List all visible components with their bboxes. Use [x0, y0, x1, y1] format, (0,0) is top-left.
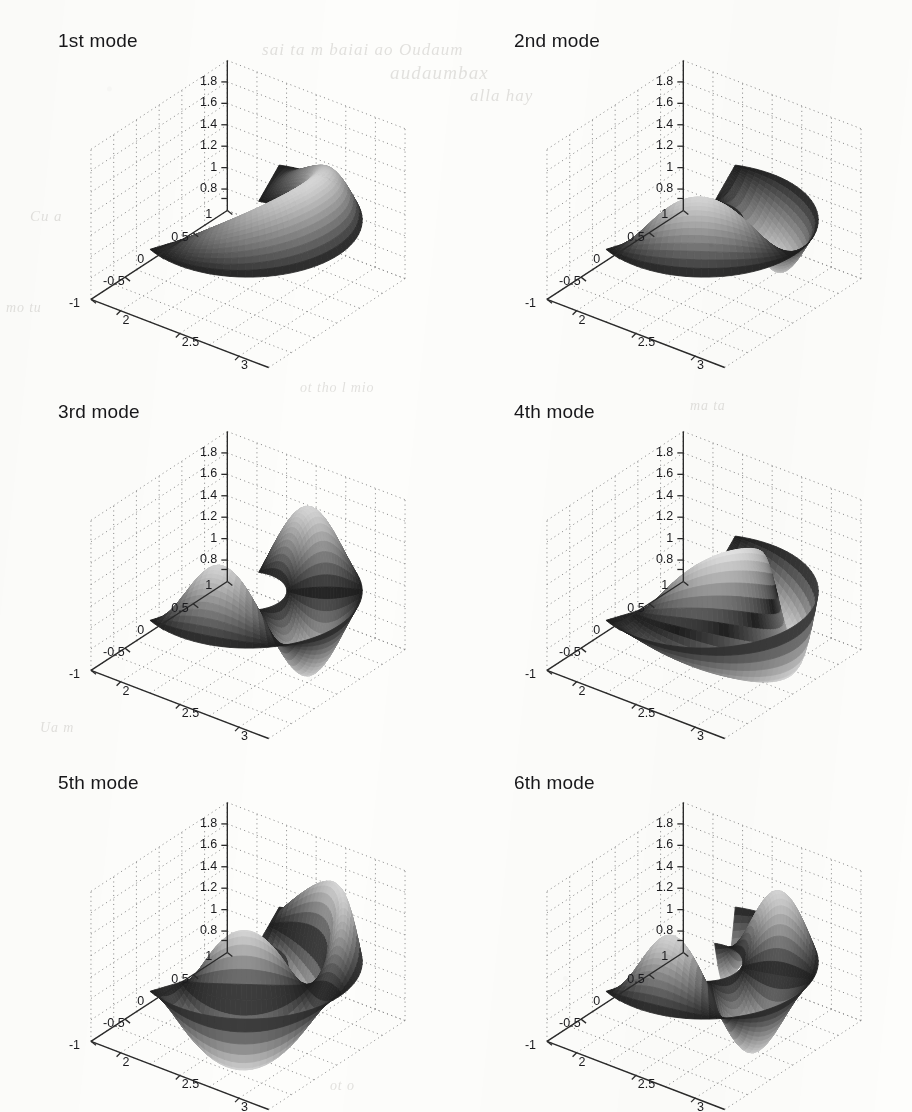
z-axis-tick-label: 1.4 [183, 117, 217, 131]
z-axis-tick-label: 1.2 [639, 880, 673, 894]
x-axis-tick-label: 2 [579, 1055, 586, 1069]
z-axis-tick-label: 1.4 [639, 117, 673, 131]
mode-shape-panel-grid: 1st mode1.81.61.41.210.810.50-0.5-122.53… [0, 0, 912, 1112]
y-axis-tick-label: -0.5 [559, 1016, 581, 1030]
z-axis-tick-label: 1 [183, 902, 217, 916]
axis-lines [547, 802, 725, 1109]
z-axis-tick-label: 1.2 [183, 509, 217, 523]
x-axis-tick-label: 2 [123, 684, 130, 698]
z-axis-tick-label: 1 [639, 531, 673, 545]
axes-3d [456, 371, 912, 742]
z-axis-tick-label: 0.8 [639, 923, 673, 937]
y-axis-tick-label: -1 [69, 667, 80, 681]
y-axis-tick-label: 0 [593, 252, 600, 266]
z-axis-tick-label: 1 [639, 160, 673, 174]
z-axis-tick-label: 1.4 [639, 859, 673, 873]
y-axis-tick-label: -1 [525, 296, 536, 310]
mode-panel: 1st mode1.81.61.41.210.810.50-0.5-122.53 [0, 0, 456, 371]
mode-shape-surface [150, 506, 362, 676]
axes-3d [0, 0, 456, 371]
y-axis-tick-label: -0.5 [103, 1016, 125, 1030]
axes-3d [456, 742, 912, 1112]
z-axis-tick-label: 0.8 [183, 181, 217, 195]
y-axis-tick-label: 0 [137, 623, 144, 637]
x-axis-tick-label: 3 [697, 1100, 704, 1112]
y-axis-tick-label: 0.5 [627, 972, 644, 986]
z-axis-tick-label: 0.8 [639, 552, 673, 566]
mode-panel: 3rd mode1.81.61.41.210.810.50-0.5-122.53 [0, 371, 456, 742]
z-axis-tick-label: 1.8 [639, 74, 673, 88]
x-axis-tick-label: 3 [241, 358, 248, 372]
z-axis-tick-label: 1.4 [183, 859, 217, 873]
x-axis-tick-label: 2.5 [182, 335, 199, 349]
y-axis-tick-label: -1 [69, 1038, 80, 1052]
z-axis-tick-label: 1.8 [183, 816, 217, 830]
y-axis-tick-label: 0 [593, 994, 600, 1008]
x-axis-tick-label: 2.5 [182, 706, 199, 720]
z-axis-tick-label: 1.2 [639, 509, 673, 523]
mode-panel: 6th mode1.81.61.41.210.810.50-0.5-122.53 [456, 742, 912, 1112]
x-axis-tick-label: 2 [123, 1055, 130, 1069]
panel-title: 4th mode [514, 401, 595, 423]
y-axis-tick-label: -1 [69, 296, 80, 310]
z-axis-tick-label: 0.8 [183, 552, 217, 566]
y-axis-tick-label: 1 [205, 578, 212, 592]
mode-panel: 5th mode1.81.61.41.210.810.50-0.5-122.53 [0, 742, 456, 1112]
x-axis-tick-label: 2.5 [638, 706, 655, 720]
y-axis-tick-label: 0.5 [171, 230, 188, 244]
y-axis-tick-label: 1 [661, 207, 668, 221]
panel-title: 6th mode [514, 772, 595, 794]
y-axis-tick-label: -0.5 [559, 274, 581, 288]
y-axis-tick-label: 0 [137, 994, 144, 1008]
y-axis-tick-label: -1 [525, 667, 536, 681]
z-axis-tick-label: 1.6 [183, 837, 217, 851]
mode-panel: 4th mode1.81.61.41.210.810.50-0.5-122.53 [456, 371, 912, 742]
y-axis-tick-label: 0.5 [171, 601, 188, 615]
z-axis-tick-label: 1.6 [183, 95, 217, 109]
z-axis-tick-label: 1.2 [183, 138, 217, 152]
x-axis-tick-label: 3 [697, 358, 704, 372]
z-axis-tick-label: 1.8 [183, 445, 217, 459]
panel-title: 2nd mode [514, 30, 600, 52]
z-axis-tick-label: 1.2 [183, 880, 217, 894]
z-axis-tick-label: 1.6 [639, 837, 673, 851]
y-axis-tick-label: 1 [661, 578, 668, 592]
z-axis-tick-label: 1.2 [639, 138, 673, 152]
panel-title: 5th mode [58, 772, 139, 794]
z-axis-tick-label: 1.6 [639, 466, 673, 480]
z-axis-tick-label: 1 [639, 902, 673, 916]
axes-3d [456, 0, 912, 371]
y-axis-tick-label: -1 [525, 1038, 536, 1052]
x-axis-tick-label: 3 [697, 729, 704, 743]
x-axis-tick-label: 2.5 [182, 1077, 199, 1091]
y-axis-tick-label: -0.5 [103, 645, 125, 659]
z-axis-tick-label: 1 [183, 531, 217, 545]
mode-panel: 2nd mode1.81.61.41.210.810.50-0.5-122.53 [456, 0, 912, 371]
z-axis-tick-label: 0.8 [639, 181, 673, 195]
y-axis-tick-label: -0.5 [559, 645, 581, 659]
y-axis-tick-label: 1 [205, 207, 212, 221]
panel-title: 3rd mode [58, 401, 140, 423]
x-axis-tick-label: 2 [579, 313, 586, 327]
z-axis-tick-label: 1.8 [639, 445, 673, 459]
x-axis-tick-label: 2 [579, 684, 586, 698]
y-axis-tick-label: 0 [593, 623, 600, 637]
y-axis-tick-label: 1 [661, 949, 668, 963]
x-axis-tick-label: 2 [123, 313, 130, 327]
z-axis-tick-label: 1 [183, 160, 217, 174]
axis-lines [91, 60, 269, 367]
y-axis-tick-label: -0.5 [103, 274, 125, 288]
x-axis-tick-label: 3 [241, 1100, 248, 1112]
y-axis-tick-label: 0.5 [171, 972, 188, 986]
x-axis-tick-label: 3 [241, 729, 248, 743]
axes-3d [0, 371, 456, 742]
axes-3d [0, 742, 456, 1112]
z-axis-tick-label: 0.8 [183, 923, 217, 937]
z-axis-tick-label: 1.4 [183, 488, 217, 502]
z-axis-tick-label: 1.8 [183, 74, 217, 88]
z-axis-tick-label: 1.6 [639, 95, 673, 109]
x-axis-tick-label: 2.5 [638, 1077, 655, 1091]
y-axis-tick-label: 0.5 [627, 230, 644, 244]
y-axis-tick-label: 0.5 [627, 601, 644, 615]
x-axis-tick-label: 2.5 [638, 335, 655, 349]
